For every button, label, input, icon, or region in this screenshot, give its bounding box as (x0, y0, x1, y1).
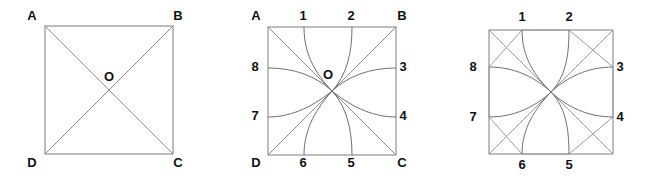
corner-label-a: A (251, 8, 261, 23)
chord-4-to-5 (569, 117, 613, 154)
panel-square-with-curved-spokes: A B C D 1 2 3 4 5 6 7 8 O (218, 0, 436, 180)
edge-label-1: 1 (299, 8, 306, 23)
edge-label-6: 6 (518, 157, 525, 172)
chord-2-to-3 (569, 30, 613, 67)
edge-label-7: 7 (251, 108, 258, 123)
spoke-curve-6 (522, 92, 551, 154)
corner-line-topright-to-center (551, 30, 613, 92)
spoke-curve-3 (332, 68, 396, 91)
edge-label-1: 1 (518, 9, 525, 24)
corner-line-topleft-to-center (489, 30, 551, 92)
edge-label-3: 3 (399, 59, 406, 74)
center-label-o: O (323, 67, 333, 82)
edge-label-7: 7 (469, 109, 476, 124)
corner-label-c: C (397, 155, 407, 170)
edge-label-8: 8 (469, 59, 476, 74)
edge-label-2: 2 (565, 9, 572, 24)
corner-label-d: D (27, 155, 36, 170)
spoke-curve-8 (489, 67, 551, 92)
edge-label-5: 5 (565, 157, 572, 172)
edge-label-3: 3 (616, 59, 623, 74)
corner-line-bottomleft-to-center (489, 92, 551, 154)
figure-root: A B C D O A B (0, 0, 656, 180)
panel-2-svg: A B C D 1 2 3 4 5 6 7 8 O (218, 0, 436, 180)
spoke-curve-7 (489, 92, 551, 117)
edge-label-4: 4 (399, 108, 407, 123)
corner-label-b: B (173, 8, 182, 23)
panel-square-with-curves-and-corner-crosses: 1 2 3 4 5 6 7 8 (436, 0, 656, 180)
spoke-curve-7 (268, 91, 332, 117)
panel-square-with-diagonals: A B C D O (0, 0, 218, 180)
panel-3-svg: 1 2 3 4 5 6 7 8 (436, 0, 656, 180)
corner-label-c: C (173, 155, 183, 170)
diagonal-b-to-center (332, 27, 396, 91)
corner-label-d: D (251, 155, 260, 170)
edge-label-6: 6 (299, 155, 306, 170)
edge-label-8: 8 (251, 59, 258, 74)
edge-label-2: 2 (347, 8, 354, 23)
corner-label-b: B (397, 8, 406, 23)
panel-1-svg: A B C D O (0, 0, 218, 180)
corner-label-a: A (27, 8, 37, 23)
center-label-o: O (104, 69, 114, 84)
diagonal-d-to-center (268, 91, 332, 155)
edge-label-4: 4 (616, 109, 624, 124)
spoke-curve-1 (522, 30, 551, 92)
edge-label-5: 5 (347, 155, 354, 170)
corner-line-bottomright-to-center (551, 92, 613, 154)
diagonal-c-to-center (332, 91, 396, 155)
